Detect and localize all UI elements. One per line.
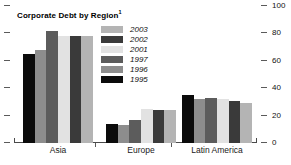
legend-item-1995: 1995 (101, 75, 148, 84)
y-tick-right-20 (261, 115, 267, 116)
legend-swatch-1997 (101, 56, 123, 63)
y-tick-left-0 (4, 142, 10, 143)
y-tick-label-80: 80 (272, 29, 281, 37)
y-tick-right-60 (261, 60, 267, 61)
bar-asia-1995 (23, 54, 35, 143)
y-tick-right-0 (261, 142, 267, 143)
bar-latin-america-2003 (240, 103, 252, 143)
bar-asia-1996 (35, 50, 47, 143)
legend-item-1996: 1996 (101, 65, 148, 74)
legend-label-1995: 1995 (130, 76, 148, 84)
y-tick-right-40 (261, 87, 267, 88)
bar-asia-2003 (81, 36, 93, 143)
bar-latin-america-1995 (182, 95, 194, 143)
category-label-asia: Asia (23, 146, 93, 155)
group-separator-1 (95, 143, 96, 147)
bar-latin-america-2001 (217, 99, 229, 143)
bar-group-asia (23, 6, 93, 143)
bar-europe-1997 (129, 120, 141, 143)
bar-asia-2001 (58, 36, 70, 143)
legend-item-1997: 1997 (101, 55, 148, 64)
bar-asia-1997 (46, 31, 58, 143)
legend-item-2002: 2002 (101, 35, 148, 44)
y-axis-left-spine (14, 138, 15, 143)
legend-label-1996: 1996 (130, 66, 148, 74)
legend-swatch-2001 (101, 46, 123, 53)
y-tick-left-60 (4, 60, 10, 61)
legend-item-2001: 2001 (101, 45, 148, 54)
legend-label-2003: 2003 (130, 26, 148, 34)
bar-asia-2002 (70, 36, 82, 143)
y-tick-label-0: 0 (272, 139, 276, 147)
legend-swatch-1996 (101, 66, 123, 73)
bar-latin-america-2002 (229, 101, 241, 143)
bars (182, 6, 252, 143)
bar-europe-2003 (164, 110, 176, 143)
legend-label-1997: 1997 (130, 56, 148, 64)
legend-label-2001: 2001 (130, 46, 148, 54)
legend-swatch-1995 (101, 76, 123, 83)
legend-swatch-2003 (101, 26, 123, 33)
y-tick-left-100 (4, 5, 10, 6)
legend-swatch-2002 (101, 36, 123, 43)
bar-latin-america-1997 (205, 98, 217, 143)
bar-europe-2001 (141, 109, 153, 143)
bar-europe-1995 (106, 124, 118, 143)
category-label-europe: Europe (106, 146, 176, 155)
legend-item-2003: 2003 (101, 25, 148, 34)
legend-label-2002: 2002 (130, 36, 148, 44)
y-tick-label-20: 20 (272, 112, 281, 120)
y-tick-label-60: 60 (272, 57, 281, 65)
y-tick-right-100 (261, 5, 267, 6)
bar-europe-1996 (118, 125, 130, 143)
y-tick-right-80 (261, 32, 267, 33)
bar-europe-2002 (153, 110, 165, 143)
bars (23, 6, 93, 143)
y-tick-left-40 (4, 87, 10, 88)
y-tick-left-80 (4, 32, 10, 33)
bar-group-latin-america (182, 6, 252, 143)
bar-latin-america-1996 (194, 99, 206, 143)
legend: 200320022001199719961995 (101, 25, 148, 84)
y-axis-right-spine (256, 138, 257, 143)
chart-figure: Corporate Debt by Region1 020406080100 A… (0, 0, 291, 165)
y-tick-label-40: 40 (272, 84, 281, 92)
y-tick-label-100: 100 (272, 2, 285, 10)
category-label-latin-america: Latin America (182, 146, 252, 155)
y-tick-left-20 (4, 115, 10, 116)
